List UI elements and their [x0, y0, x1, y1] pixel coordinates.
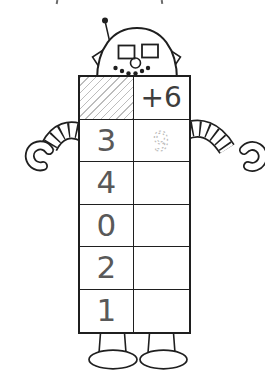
output-cell-row2	[134, 162, 190, 205]
input-value: 0	[96, 210, 116, 241]
input-cell-row3: 0	[80, 205, 134, 248]
robot-right-foot-icon	[140, 350, 187, 369]
robot-right-claw-icon	[244, 146, 263, 167]
input-value: 3	[96, 125, 116, 156]
robot-left-foot-icon	[89, 350, 137, 369]
output-cell-row4	[134, 247, 190, 290]
function-machine-table: +6 3 9 4 0 2	[78, 75, 191, 334]
output-cell-row5	[134, 290, 190, 333]
robot-left-claw-icon	[30, 145, 49, 166]
traced-answer-digit: 9	[136, 120, 186, 160]
input-value: 4	[96, 167, 116, 198]
rule-cell: +6	[134, 77, 190, 120]
rule-label: +6	[141, 84, 182, 112]
worksheet-canvas: +6 3 9 4 0 2	[0, 0, 265, 373]
input-cell-row1: 3	[80, 120, 134, 163]
input-header-cell-hatched	[80, 77, 134, 120]
input-cell-row5: 1	[80, 290, 134, 333]
output-cell-row1: 9	[134, 120, 190, 163]
input-value: 2	[96, 252, 116, 283]
svg-text:9: 9	[153, 127, 170, 157]
input-cell-row4: 2	[80, 247, 134, 290]
input-cell-row2: 4	[80, 162, 134, 205]
input-value: 1	[96, 295, 116, 326]
output-cell-row3	[134, 205, 190, 248]
stray-mark-right	[161, 0, 164, 4]
